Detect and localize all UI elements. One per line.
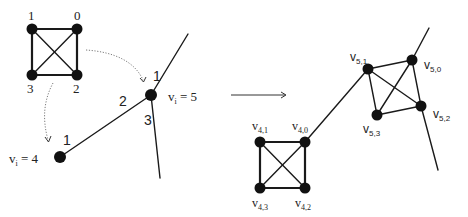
mapping-arrows bbox=[45, 50, 146, 142]
edge-v40-v51 bbox=[305, 69, 368, 142]
vertex-label-v4: vi = 4 bbox=[9, 151, 39, 168]
dotted-arrow-to-v4 bbox=[45, 83, 53, 140]
original-graph: 1 2 3 1 vi = 5 vi = 4 bbox=[9, 34, 197, 178]
label-v51: v5,1 bbox=[350, 50, 368, 66]
k4-edge bbox=[412, 60, 421, 106]
edge-v5-v4 bbox=[60, 95, 151, 157]
svg-text:vi = 4: vi = 4 bbox=[9, 151, 39, 168]
edge-port-1 bbox=[151, 34, 188, 95]
transform-arrow bbox=[231, 92, 286, 98]
graph-expansion-diagram: 1 0 3 2 1 2 3 1 vi = 5 vi = 4 bbox=[0, 0, 468, 217]
port-label-2: 2 bbox=[119, 93, 127, 109]
k4-node-0 bbox=[72, 24, 83, 35]
label-v42: v4,2 bbox=[295, 196, 311, 212]
k4-node-2 bbox=[72, 70, 83, 81]
node-v40 bbox=[300, 137, 311, 148]
label-v53: v5,3 bbox=[363, 122, 381, 138]
svg-text:vi = 5: vi = 5 bbox=[168, 89, 197, 106]
node-v43 bbox=[255, 183, 266, 194]
node-v53 bbox=[372, 110, 383, 121]
label-v52: v5,2 bbox=[433, 107, 451, 123]
node-v50 bbox=[407, 55, 418, 66]
label-v43: v4,3 bbox=[252, 196, 268, 212]
k4-label-2: 2 bbox=[73, 81, 80, 96]
vertex-v4 bbox=[54, 151, 66, 163]
expanded-k4-v5 bbox=[368, 28, 438, 170]
k4-label-0: 0 bbox=[74, 8, 81, 23]
port-label-3: 3 bbox=[144, 112, 152, 128]
arrowhead-icon bbox=[45, 136, 51, 142]
edge-port-3 bbox=[151, 95, 160, 178]
k4-node-1 bbox=[27, 24, 38, 35]
vertex-label-v5: vi = 5 bbox=[168, 89, 197, 106]
k4-node-3 bbox=[27, 70, 38, 81]
node-v52 bbox=[416, 101, 427, 112]
label-v41: v4,1 bbox=[252, 119, 268, 135]
port-label-1-left: 1 bbox=[63, 132, 71, 148]
expanded-nodes bbox=[255, 55, 427, 194]
k4-label-1: 1 bbox=[28, 8, 35, 23]
label-v50: v5,0 bbox=[424, 58, 442, 74]
k4-edge bbox=[368, 69, 377, 115]
k4-edge bbox=[368, 60, 412, 69]
dotted-arrow-to-v5 bbox=[86, 50, 143, 80]
k4-label-3: 3 bbox=[27, 81, 34, 96]
port-label-1: 1 bbox=[153, 68, 161, 84]
template-k4-graph: 1 0 3 2 bbox=[27, 8, 83, 96]
k4-edge bbox=[377, 106, 421, 115]
node-v41 bbox=[255, 137, 266, 148]
expanded-k4-v4 bbox=[260, 142, 305, 188]
node-v42 bbox=[300, 183, 311, 194]
label-v40: v4,0 bbox=[292, 119, 308, 135]
k4-edge bbox=[377, 60, 412, 115]
vertex-v5 bbox=[145, 89, 157, 101]
